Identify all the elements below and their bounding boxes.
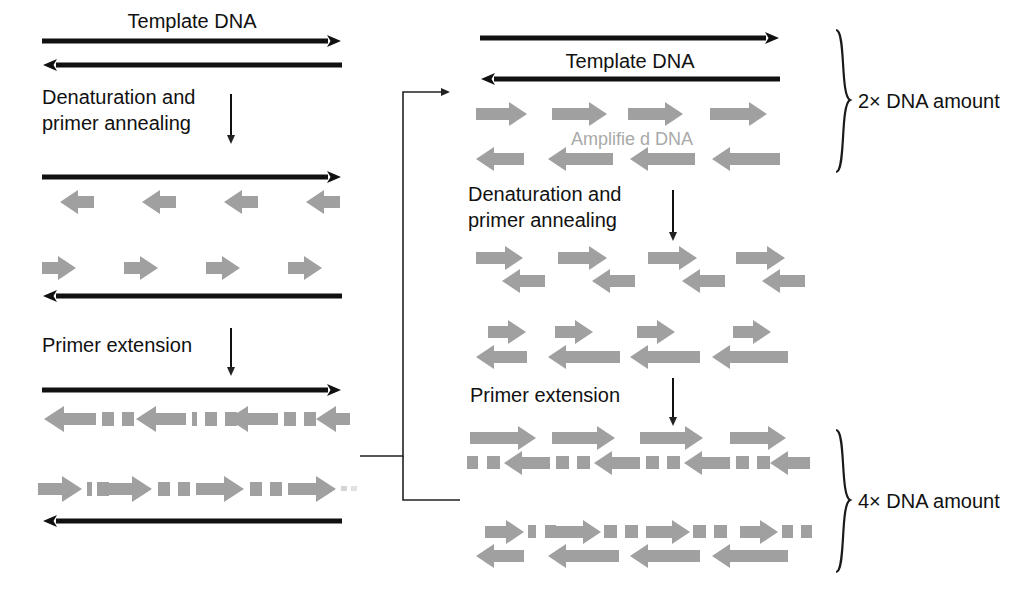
extended-primer-arrow-left (44, 406, 96, 432)
amplified-strand-right (730, 426, 786, 450)
left-step-extended-top (42, 390, 350, 432)
amplified-strand-right (476, 246, 523, 270)
extension-dash (757, 456, 770, 469)
extension-dash (801, 525, 812, 538)
extension-dash-faint (351, 486, 357, 491)
final-a-reverse-row (467, 451, 810, 475)
primer-arrow-left (502, 269, 545, 293)
extended-primer-arrow-left (504, 451, 550, 475)
amplified-strand-right (640, 426, 703, 450)
template-dna-label-right: Template DNA (566, 50, 696, 72)
cycle-connector (360, 92, 460, 500)
extension-dash (782, 525, 793, 538)
annealed-b-reverse-row (476, 345, 788, 369)
amplified-strand-left (712, 147, 780, 171)
amplified-strand-right (552, 102, 607, 126)
connector-upper-path (360, 92, 442, 456)
left-step-template-duplex (42, 41, 342, 65)
pcr-diagram-canvas: Template DNA Denaturation and primer ann… (0, 0, 1029, 612)
primer-arrow-right (488, 320, 526, 344)
extension-dash (577, 456, 590, 469)
primer-arrow-right (733, 320, 771, 344)
extension-dash (693, 525, 706, 538)
denaturation-label-right-line2: primer annealing (468, 209, 617, 231)
extended-row-left-forward (38, 476, 357, 502)
extension-dash (178, 482, 190, 496)
extended-primer-arrow-left (594, 451, 640, 475)
amplified-strand-left (712, 345, 788, 369)
extended-primer-arrow-left (770, 451, 810, 475)
amplified-strand-right (552, 426, 615, 450)
extension-dash (604, 525, 617, 538)
amplified-strand-left (548, 147, 613, 171)
final-b-forward-row (485, 520, 812, 544)
brace-4x-group: 4× DNA amount (836, 430, 1000, 572)
extension-dash (205, 412, 217, 426)
primer-arrow-right (637, 320, 675, 344)
primer-arrow-right (42, 256, 76, 280)
amplified-strand-left (630, 147, 695, 171)
brace-2x (836, 30, 850, 172)
right-step-template-duplex: Template DNA (480, 38, 780, 79)
extended-primer-arrow-right (288, 476, 336, 502)
extension-dash (487, 456, 500, 469)
primer-row-left-forward (42, 256, 322, 280)
right-step-final-a (467, 426, 810, 475)
extension-dash (97, 482, 109, 496)
amplified-strand-right (628, 102, 683, 126)
extended-primer-arrow-left (228, 406, 278, 432)
right-amplified-forward-row (476, 102, 767, 126)
primer-arrow-left (592, 269, 635, 293)
extension-dash (625, 525, 638, 538)
extended-primer-arrow-right (740, 520, 778, 544)
extension-dash (192, 412, 197, 426)
amplified-strand-right (736, 246, 785, 270)
primer-arrow-right (124, 256, 158, 280)
extension-dash (122, 412, 134, 426)
annealed-b-forward-row (488, 320, 771, 344)
four-x-dna-amount-label: 4× DNA amount (858, 490, 1000, 512)
left-primer-extension-step-label: Primer extension (42, 328, 231, 368)
primer-row-left-reverse (60, 190, 340, 214)
right-primer-extension-step-label: Primer extension (470, 378, 673, 418)
template-dna-label-left: Template DNA (128, 10, 258, 32)
extension-dash (556, 456, 569, 469)
extended-primer-arrow-right (196, 476, 244, 502)
left-denaturation-step-label: Denaturation and primer annealing (42, 86, 231, 136)
brace-4x (836, 430, 850, 572)
primer-arrow-right (288, 256, 322, 280)
extended-primer-arrow-right (556, 520, 601, 544)
primer-arrow-left (762, 269, 805, 293)
extension-dash (284, 412, 296, 426)
amplified-strand-left (476, 147, 524, 171)
extension-dash (87, 482, 92, 496)
extended-row-left-reverse (44, 406, 350, 432)
left-step-extended-bottom (38, 476, 357, 521)
amplified-strand-left (630, 345, 700, 369)
extension-dash (250, 482, 262, 496)
amplified-strand-left (476, 345, 527, 369)
final-a-forward-row (470, 426, 786, 450)
denaturation-label-left-line1: Denaturation and (42, 86, 195, 108)
right-step-final-b (476, 520, 812, 568)
primer-arrow-left (224, 190, 258, 214)
denaturation-label-right-line1: Denaturation and (468, 183, 621, 205)
extension-dash (714, 525, 727, 538)
extension-dash (667, 456, 680, 469)
extended-primer-arrow-right (485, 520, 524, 544)
extended-primer-arrow-left (136, 406, 186, 432)
extension-dash (102, 412, 114, 426)
amplified-strand-left (476, 544, 524, 568)
left-step-annealed-top (42, 177, 340, 214)
primer-arrow-left (142, 190, 176, 214)
two-x-dna-amount-label: 2× DNA amount (858, 90, 1000, 112)
annealed-a-reverse-row (502, 269, 805, 293)
amplified-strand-left (712, 544, 788, 568)
left-template-dna-label-group: Template DNA (128, 10, 258, 32)
extension-dash (646, 456, 659, 469)
extension-dash (736, 456, 749, 469)
extended-primer-arrow-right (646, 520, 690, 544)
primer-extension-label-right: Primer extension (470, 384, 620, 406)
extension-dash-faint (341, 486, 347, 491)
extension-dash (270, 482, 282, 496)
